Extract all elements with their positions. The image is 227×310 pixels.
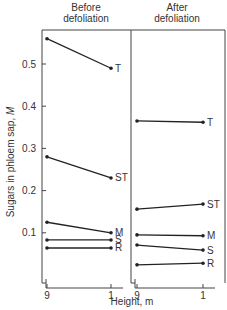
series-m: M <box>135 230 215 241</box>
series-label: M <box>207 230 215 241</box>
panel-title-line1: Before <box>71 2 101 13</box>
data-point <box>45 246 49 250</box>
series-st: ST <box>45 155 128 183</box>
series-label: ST <box>115 172 128 183</box>
panel-title-line2: defoliation <box>63 13 109 24</box>
series-s: S <box>45 234 122 245</box>
data-point <box>109 238 113 242</box>
series-r: R <box>135 258 214 269</box>
series-t: T <box>135 117 213 128</box>
data-point <box>201 234 205 238</box>
data-point <box>45 238 49 242</box>
data-point <box>135 233 139 237</box>
x-tick-label: 1 <box>200 290 206 301</box>
series-r: R <box>45 242 122 253</box>
series-label: R <box>115 242 122 253</box>
data-point <box>109 66 113 70</box>
sugar-phloem-chart: 0.10.20.30.40.5 9191 BeforedefoliationAf… <box>0 0 227 310</box>
data-point <box>109 231 113 235</box>
series-m: M <box>45 220 123 238</box>
y-axis-label: Sugars in phloem sap, M <box>5 106 16 217</box>
y-tick-label: 0.3 <box>22 143 36 154</box>
y-tick-label: 0.1 <box>22 227 36 238</box>
data-point <box>201 120 205 124</box>
series-label: S <box>207 245 214 256</box>
series-st: ST <box>135 199 220 211</box>
panel-titles: BeforedefoliationAfterdefoliation <box>63 2 200 24</box>
data-point <box>109 176 113 180</box>
y-tick-label: 0.2 <box>22 185 36 196</box>
data-point <box>45 220 49 224</box>
series-label: T <box>115 63 121 74</box>
series-label: ST <box>207 199 220 210</box>
data-point <box>135 119 139 123</box>
data-point <box>109 246 113 250</box>
data-point <box>45 37 49 41</box>
series-s: S <box>135 243 214 255</box>
y-tick-label: 0.4 <box>22 101 36 112</box>
data-point <box>135 263 139 267</box>
panel-title-line1: After <box>166 2 188 13</box>
x-tick-label: 9 <box>44 290 50 301</box>
data-point <box>135 243 139 247</box>
data-point <box>135 207 139 211</box>
series-t: T <box>45 37 121 74</box>
series-label: R <box>207 258 214 269</box>
x-axis-label: Height, m <box>111 296 154 307</box>
data-point <box>201 202 205 206</box>
y-tick-label: 0.5 <box>22 59 36 70</box>
series-label: T <box>207 117 213 128</box>
data-point <box>45 155 49 159</box>
data-point <box>201 248 205 252</box>
data-point <box>201 261 205 265</box>
panel-title-line2: defoliation <box>154 13 200 24</box>
series-lines: TSTMSRTSTMSR <box>45 37 220 269</box>
